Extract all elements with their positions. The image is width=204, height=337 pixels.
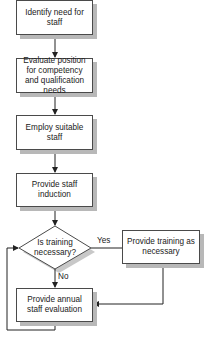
step-annual-evaluation-label: Provide annual staff evaluation xyxy=(20,295,89,315)
step-annual-evaluation: Provide annual staff evaluation xyxy=(16,288,93,322)
step-provide-training-label: Provide training as necessary xyxy=(126,237,196,257)
step-provide-training: Provide training as necessary xyxy=(122,230,200,264)
step-identify-need-label: Identify need for staff xyxy=(20,8,89,28)
step-evaluate-position-label: Evaluate position for competency and qua… xyxy=(20,56,89,96)
connectors-layer xyxy=(0,0,204,337)
flowchart-canvas: Identify need for staff Evaluate positio… xyxy=(0,0,204,337)
step-employ-staff: Employ suitable staff xyxy=(16,115,93,150)
step-identify-need: Identify need for staff xyxy=(16,0,93,35)
edge-training-to-evaluation xyxy=(94,264,163,304)
step-employ-staff-label: Employ suitable staff xyxy=(20,123,89,143)
edge-label-no: No xyxy=(58,272,68,282)
decision-label-text: Is training necessary? xyxy=(27,238,83,258)
decision-label: Is training necessary? xyxy=(27,236,83,260)
edge-label-yes: Yes xyxy=(97,236,110,246)
step-evaluate-position: Evaluate position for competency and qua… xyxy=(16,58,93,93)
step-staff-induction: Provide staff induction xyxy=(16,173,93,207)
step-staff-induction-label: Provide staff induction xyxy=(20,180,89,200)
